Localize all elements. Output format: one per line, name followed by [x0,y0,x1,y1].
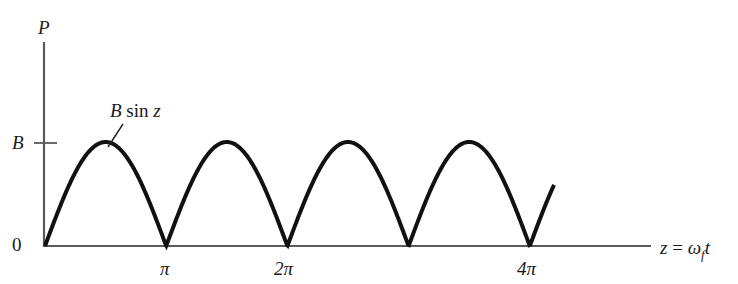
curve-annotation-z: z [153,100,160,121]
x-axis-label-omega: ω [688,237,701,258]
curve-annotation-sin: sin [126,100,148,121]
x-axis-label-t: t [705,237,710,258]
x-axis-label: z = ωft [660,238,710,261]
curve-annotation: B sin z [110,101,161,120]
y-tick-label-zero: 0 [12,235,22,254]
x-tick-label-pi: π [160,259,170,278]
b-sin-z-curve [45,142,554,246]
y-axis-label: P [38,18,50,37]
x-tick-label-4pi: 4π [517,259,536,278]
chart-canvas [0,0,738,284]
x-tick-label-2pi: 2π [274,259,293,278]
x-axis-label-eq: = [672,237,683,258]
curve-annotation-b: B [110,100,122,121]
x-axis-label-z: z [660,237,667,258]
y-tick-label-b: B [12,133,24,152]
